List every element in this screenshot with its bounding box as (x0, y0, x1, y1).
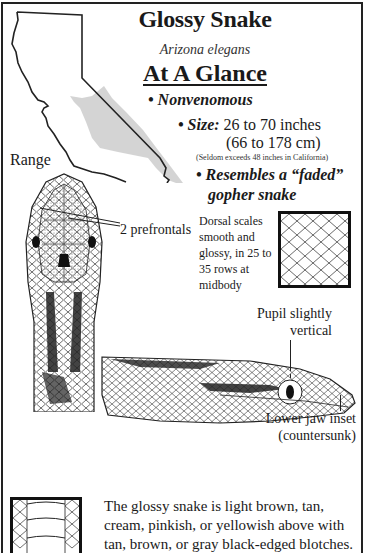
dorsal-scales-inset (278, 211, 351, 288)
page-title: Glossy Snake (130, 6, 280, 33)
resembles-fact: • Resembles a “faded” gopher snake (196, 165, 343, 205)
size-fact: • Size: 26 to 70 inches (178, 116, 321, 134)
bullet-icon: • (178, 116, 188, 133)
dorsal-scales-description: Dorsal scales smooth and glossy, in 25 t… (199, 213, 279, 293)
scientific-name: Arizona elegans (130, 42, 280, 58)
bullet-icon: • (196, 166, 206, 183)
section-heading: At A Glance (130, 60, 280, 87)
venom-status: • Nonvenomous (148, 91, 253, 109)
ventral-scales-icon (13, 500, 79, 553)
size-note: (Seldom exceeds 48 inches in California) (196, 153, 328, 162)
pupil-callout: Pupil slightly vertical (238, 305, 332, 339)
lower-jaw-callout: Lower jaw inset (countersunk) (251, 410, 356, 444)
scale-pattern-icon (281, 214, 348, 285)
belly-scales-inset (10, 497, 82, 553)
description-paragraph: The glossy snake is light brown, tan, cr… (104, 497, 362, 553)
map-range-label: Range (10, 151, 51, 169)
size-inches: 26 to 70 inches (224, 116, 321, 133)
jaw-callout-line (340, 395, 341, 411)
prefrontals-callout-lines (40, 205, 122, 235)
size-centimeters: (66 to 178 cm) (226, 134, 321, 152)
bullet-icon: • (148, 91, 158, 108)
prefrontals-callout: 2 prefrontals (120, 222, 191, 238)
